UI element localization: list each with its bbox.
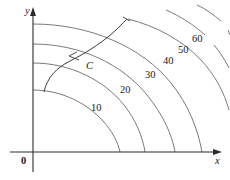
contour-path-10 (33, 90, 120, 152)
contour-path-60b (214, 45, 229, 68)
contour-path-70 (197, 5, 221, 21)
contour-path-50 (128, 19, 229, 110)
contour-label-10: 10 (91, 103, 102, 114)
contour-label-60: 60 (192, 34, 203, 45)
curve-c-path (44, 19, 127, 92)
contour-label-30: 30 (145, 70, 156, 81)
contour-diagram: y x 0 C 10 20 30 40 50 60 (0, 0, 230, 180)
y-axis-arrowhead (30, 7, 36, 16)
origin-label: 0 (21, 156, 26, 167)
contour-label-40: 40 (163, 56, 174, 67)
curve-c-label: C (86, 61, 93, 72)
diagram-canvas (0, 0, 230, 180)
contour-label-50: 50 (178, 45, 189, 56)
contour-label-20: 20 (120, 85, 131, 96)
y-axis-label: y (25, 6, 30, 17)
x-axis-label: x (215, 156, 220, 167)
curve-c (44, 17, 130, 92)
contour-path-60 (166, 10, 205, 35)
contour-path-30 (33, 44, 175, 152)
axes (10, 7, 222, 172)
contour-curves (33, 5, 230, 152)
contour-path-40 (33, 24, 202, 152)
contour-path-70b (228, 30, 230, 35)
